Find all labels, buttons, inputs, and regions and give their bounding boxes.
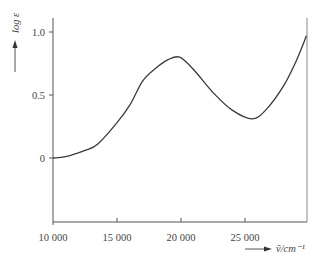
x-tick-label: 15 000 xyxy=(103,232,132,243)
arrow-up-icon xyxy=(13,40,18,48)
y-tick-label: 0.5 xyxy=(32,90,45,101)
y-axis-label: log ε xyxy=(10,12,21,33)
x-tick-label: 20 000 xyxy=(167,232,196,243)
y-ticks: 00.51.0 xyxy=(32,27,53,164)
spectrum-curve xyxy=(53,36,306,158)
x-axis-label-group: ṽ/cm⁻¹ xyxy=(245,243,305,254)
chart: 00.51.0 10 00015 00020 00025 000 log ε ṽ… xyxy=(0,0,320,262)
x-tick-label: 25 000 xyxy=(231,232,260,243)
y-tick-label: 1.0 xyxy=(32,27,45,38)
x-tick-label: 10 000 xyxy=(39,232,68,243)
y-tick-label: 0 xyxy=(40,153,45,164)
x-axis-label: ṽ/cm⁻¹ xyxy=(276,243,305,254)
arrow-right-icon xyxy=(264,247,272,252)
y-axis-label-group: log ε xyxy=(10,12,21,72)
